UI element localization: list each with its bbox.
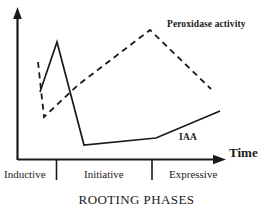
figure-caption: ROOTING PHASES bbox=[0, 192, 273, 208]
x-axis-label: Time bbox=[229, 145, 258, 161]
chart-canvas bbox=[0, 0, 273, 216]
series-label-peroxidase: Peroxidase activity bbox=[167, 19, 246, 29]
series-line-iaa bbox=[40, 42, 220, 145]
series-line-peroxidase bbox=[38, 30, 211, 117]
phase-label-inductive: Inductive bbox=[4, 168, 46, 180]
arrow-up-icon bbox=[13, 7, 22, 19]
arrow-right-icon bbox=[213, 155, 226, 164]
rooting-phases-figure: Peroxidase activity IAA Time Inductive I… bbox=[0, 0, 273, 216]
series-label-iaa: IAA bbox=[179, 132, 197, 142]
phase-label-expressive: Expressive bbox=[169, 168, 217, 180]
phase-label-initiative: Initiative bbox=[84, 168, 124, 180]
